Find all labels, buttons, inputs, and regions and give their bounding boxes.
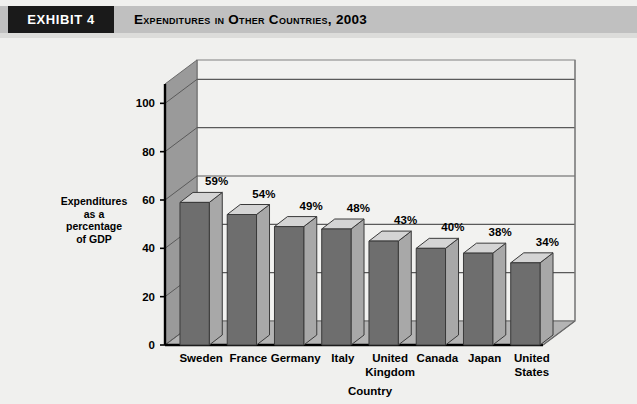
category-label: Japan [468, 351, 501, 365]
y-tick-label: 20 [113, 291, 155, 303]
category-label: UnitedStates [514, 351, 550, 379]
bar-united-kingdom [369, 231, 411, 345]
category-label: Sweden [179, 351, 222, 365]
bar-canada [416, 238, 458, 345]
bar-value-label: 34% [536, 236, 559, 248]
exhibit-tag-label: EXHIBIT 4 [27, 12, 95, 27]
bar-value-label: 43% [394, 214, 417, 226]
y-axis-title-line: of GDP [44, 233, 144, 246]
bar-value-label: 59% [205, 175, 228, 187]
bar-value-label: 38% [489, 226, 512, 238]
y-tick-label: 80 [113, 146, 155, 158]
bar-value-label: 40% [441, 221, 464, 233]
y-tick-label: 0 [113, 339, 155, 351]
category-label: Italy [331, 351, 354, 365]
bar-germany [274, 217, 316, 345]
bar-france [227, 205, 269, 346]
bar-value-label: 49% [300, 200, 323, 212]
bar-united-states [511, 253, 553, 345]
bar-value-label: 48% [347, 202, 370, 214]
bar-sweden [180, 192, 222, 345]
category-label: France [230, 351, 268, 365]
category-label: UnitedKingdom [365, 351, 415, 379]
category-label: Germany [271, 351, 321, 365]
y-tick-label: 100 [113, 97, 155, 109]
x-axis-title: Country [348, 385, 392, 397]
bar-italy [322, 219, 364, 345]
y-axis-title: Expendituresas apercentageof GDP [44, 195, 144, 245]
y-axis-title-line: as a [44, 208, 144, 221]
y-axis-title-line: Expenditures [44, 195, 144, 208]
bar-japan [463, 243, 505, 345]
category-label: Canada [417, 351, 459, 365]
bar-chart: 020406080100 Expendituresas apercentageo… [0, 38, 637, 404]
bar-value-label: 54% [252, 188, 275, 200]
exhibit-title: Expenditures in Other Countries, 2003 [134, 6, 367, 33]
y-axis-title-line: percentage [44, 220, 144, 233]
exhibit-tag: EXHIBIT 4 [8, 6, 114, 33]
